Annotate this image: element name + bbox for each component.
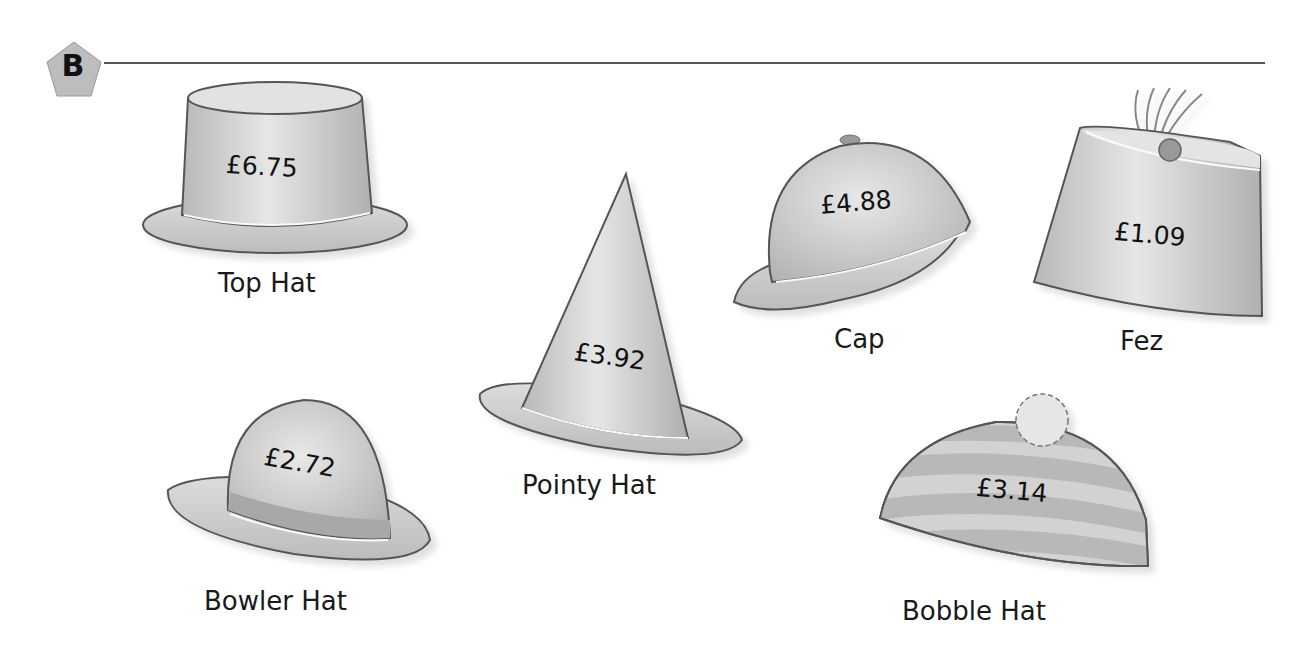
section-letter: B <box>44 48 102 83</box>
hat-label: Pointy Hat <box>522 470 656 500</box>
price-tag: £4.88 <box>819 185 893 220</box>
hat-label: Fez <box>1120 326 1163 356</box>
price-tag: £6.75 <box>225 150 298 183</box>
cap-icon <box>730 132 1010 332</box>
price-tag: £1.09 <box>1113 217 1187 252</box>
hat-item-pointy-hat: £3.92 Pointy Hat <box>474 170 746 510</box>
hat-label: Bowler Hat <box>204 586 347 616</box>
fez-icon <box>1030 86 1300 326</box>
header-rule <box>104 62 1265 64</box>
hat-item-cap: £4.88 Cap <box>730 132 1010 372</box>
hat-item-fez: £1.09 Fez <box>1030 86 1300 376</box>
hat-item-top-hat: £6.75 Top Hat <box>140 78 410 308</box>
hat-label: Bobble Hat <box>902 596 1046 626</box>
bowler-hat-icon <box>164 390 436 570</box>
pointy-hat-icon <box>474 170 746 470</box>
hat-label: Top Hat <box>218 268 316 298</box>
hat-label: Cap <box>834 324 885 354</box>
hat-item-bobble-hat: £3.14 Bobble Hat <box>876 400 1166 640</box>
hat-item-bowler-hat: £2.72 Bowler Hat <box>164 390 436 630</box>
price-tag: £3.14 <box>975 473 1049 508</box>
